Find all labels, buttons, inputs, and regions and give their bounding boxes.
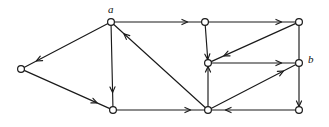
node-n_top_mid: [202, 19, 209, 26]
edge-line-e11: [114, 24, 206, 107]
edge-e2: [24, 70, 110, 108]
node-n_center: [205, 60, 212, 67]
edge-line-e3: [111, 25, 113, 106]
node-label-a: a: [108, 4, 114, 15]
node-n_top_rt: [296, 19, 303, 26]
edges-layer: [24, 19, 302, 112]
node-label-b: b: [308, 54, 314, 65]
node-n_left: [18, 66, 25, 73]
edge-e12: [116, 107, 204, 112]
edge-e9: [211, 60, 295, 65]
edge-e10: [205, 66, 210, 106]
edge-e3: [110, 25, 115, 106]
edge-e11: [114, 24, 206, 107]
node-n_bot_lf: [110, 107, 117, 114]
node-n_a: [108, 19, 115, 26]
node-n_b: [296, 60, 303, 67]
graph-canvas: [0, 0, 329, 127]
edge-e13: [211, 65, 296, 109]
directed-graph-figure: ab: [0, 0, 329, 127]
edge-e4: [114, 19, 201, 24]
edge-e15: [211, 107, 295, 112]
edge-e5: [208, 19, 295, 24]
node-n_bot_mid: [205, 107, 212, 114]
node-n_bot_rt: [296, 107, 303, 114]
edge-e14: [296, 66, 301, 106]
edge-e1: [24, 24, 108, 68]
edge-e6: [205, 25, 210, 59]
edge-e7: [211, 23, 296, 61]
